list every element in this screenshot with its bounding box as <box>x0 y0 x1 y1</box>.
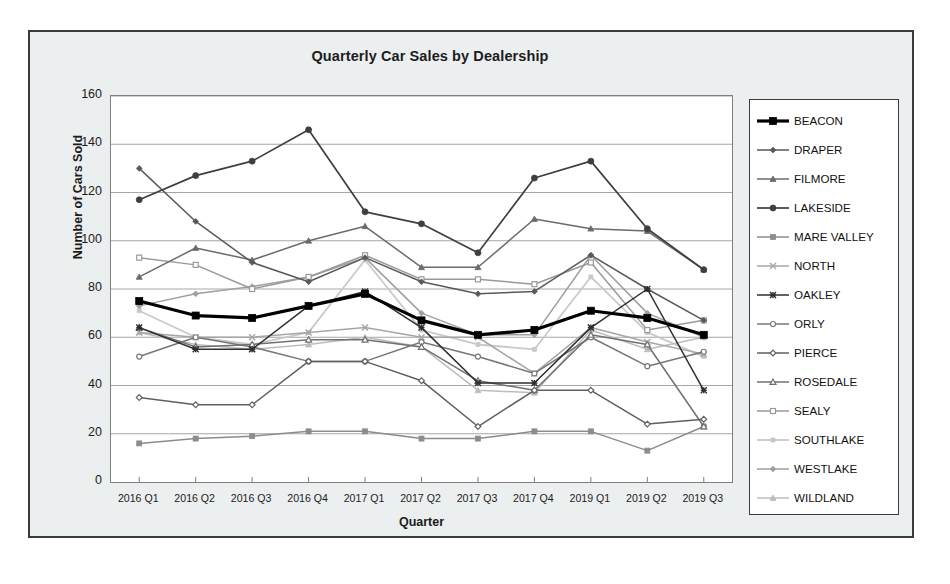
legend-symbol-diamond-open-icon <box>756 346 790 360</box>
x-tick-7: 2017 Q4 <box>513 492 554 504</box>
y-tick-40: 40 <box>56 377 102 391</box>
legend-item-westlake[interactable]: WESTLAKE <box>756 454 898 483</box>
y-tick-140: 140 <box>56 135 102 149</box>
legend-item-sealy[interactable]: SEALY <box>756 396 898 425</box>
legend-label: SEALY <box>794 404 831 417</box>
x-tick-1: 2016 Q2 <box>174 492 215 504</box>
chart-title: Quarterly Car Sales by Dealership <box>170 48 690 64</box>
y-tick-120: 120 <box>56 184 102 198</box>
x-tick-5: 2017 Q2 <box>400 492 441 504</box>
series-mare-valley <box>137 424 707 453</box>
legend-symbol-triangle-icon <box>756 172 790 186</box>
legend-label: DRAPER <box>794 143 842 156</box>
legend-symbol-diamond-icon <box>756 462 790 476</box>
y-tick-80: 80 <box>56 280 102 294</box>
legend-symbol-triangle-small-icon <box>756 491 790 505</box>
legend-item-filmore[interactable]: FILMORE <box>756 164 898 193</box>
legend-label: ROSEDALE <box>794 375 857 388</box>
x-axis-title: Quarter <box>110 515 733 529</box>
legend-item-beacon[interactable]: BEACON <box>756 106 898 135</box>
legend-item-southlake[interactable]: SOUTHLAKE <box>756 425 898 454</box>
legend-item-draper[interactable]: DRAPER <box>756 135 898 164</box>
legend-label: OAKLEY <box>794 288 840 301</box>
legend-item-pierce[interactable]: PIERCE <box>756 338 898 367</box>
y-tick-20: 20 <box>56 425 102 439</box>
legend-symbol-square-open-icon <box>756 404 790 418</box>
legend-label: PIERCE <box>794 346 837 359</box>
x-tick-2: 2016 Q3 <box>231 492 272 504</box>
x-tick-10: 2019 Q3 <box>682 492 723 504</box>
legend-symbol-circle-icon <box>756 201 790 215</box>
legend-symbol-square-icon <box>756 114 790 128</box>
x-tick-3: 2016 Q4 <box>287 492 328 504</box>
legend-symbol-cross-icon <box>756 259 790 273</box>
legend-item-mare-valley[interactable]: MARE VALLEY <box>756 222 898 251</box>
legend-label: WILDLAND <box>794 491 854 504</box>
x-tick-8: 2019 Q1 <box>570 492 611 504</box>
plot-area <box>110 95 733 483</box>
legend-label: SOUTHLAKE <box>794 433 864 446</box>
y-tick-100: 100 <box>56 232 102 246</box>
legend-symbol-diamond-icon <box>756 143 790 157</box>
y-tick-60: 60 <box>56 328 102 342</box>
x-tick-6: 2017 Q3 <box>457 492 498 504</box>
legend-item-orly[interactable]: ORLY <box>756 309 898 338</box>
y-tick-160: 160 <box>56 87 102 101</box>
x-tick-0: 2016 Q1 <box>118 492 159 504</box>
legend: BEACONDRAPERFILMORELAKESIDEMARE VALLEYNO… <box>749 99 899 515</box>
legend-label: BEACON <box>794 114 843 127</box>
legend-item-wildland[interactable]: WILDLAND <box>756 483 898 512</box>
legend-label: LAKESIDE <box>794 201 851 214</box>
legend-item-north[interactable]: NORTH <box>756 251 898 280</box>
legend-item-oakley[interactable]: OAKLEY <box>756 280 898 309</box>
legend-symbol-star-icon <box>756 288 790 302</box>
legend-label: FILMORE <box>794 172 846 185</box>
legend-symbol-triangle-open-icon <box>756 375 790 389</box>
legend-symbol-circle-open-icon <box>756 317 790 331</box>
legend-item-rosedale[interactable]: ROSEDALE <box>756 367 898 396</box>
legend-label: NORTH <box>794 259 835 272</box>
legend-symbol-square-small-icon <box>756 433 790 447</box>
chart-screenshot: Quarterly Car Sales by Dealership Number… <box>0 0 950 584</box>
x-tick-9: 2019 Q2 <box>626 492 667 504</box>
x-tick-4: 2017 Q1 <box>344 492 385 504</box>
series-lakeside <box>136 127 707 273</box>
legend-label: WESTLAKE <box>794 462 857 475</box>
legend-symbol-square-icon <box>756 230 790 244</box>
y-tick-0: 0 <box>56 473 102 487</box>
legend-label: MARE VALLEY <box>794 230 874 243</box>
series-lines <box>111 96 732 482</box>
legend-label: ORLY <box>794 317 825 330</box>
series-pierce <box>136 359 706 430</box>
legend-item-lakeside[interactable]: LAKESIDE <box>756 193 898 222</box>
